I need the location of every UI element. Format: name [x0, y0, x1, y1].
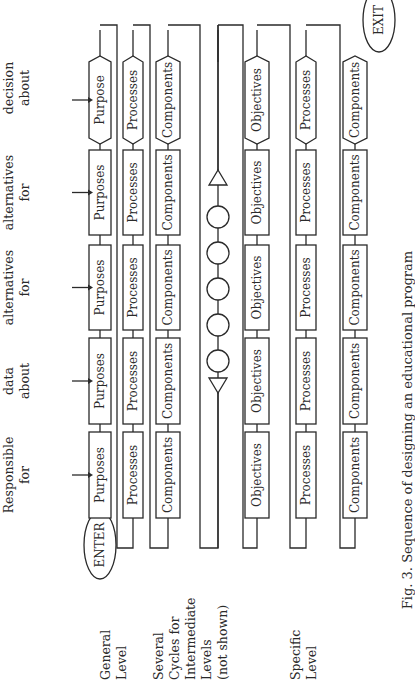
level-label-intermediate: SeveralCycles forIntermediateLevels(not …: [151, 597, 230, 680]
exit-node: EXIT: [363, 0, 395, 52]
box-label: Objectives: [250, 256, 264, 320]
general-processes-box: Processes: [123, 338, 143, 424]
box-label: Purpose: [93, 75, 107, 125]
specific-components-box: Components: [343, 56, 367, 144]
level-label-specific: SpecificLevel: [288, 630, 319, 680]
box-label: Objectives: [250, 349, 264, 413]
specific-components-box: Components: [343, 150, 367, 235]
specific-processes-box: Processes: [296, 56, 316, 144]
step-action-label: Identifyseveralalternativesfor: [0, 250, 93, 325]
specific-objectives-box: Objectives: [245, 150, 269, 235]
box-label: Components: [161, 154, 175, 230]
general-components-box: Components: [156, 245, 180, 330]
box-label: Purposes: [93, 447, 107, 503]
diagram-figure: ENTER EXIT PurposesPurposesPurposesPurpo…: [0, 0, 415, 684]
specific-objectives-box: Objectives: [245, 338, 269, 424]
cycle-circle-icon: [207, 278, 229, 300]
svg-text:for: for: [17, 466, 32, 484]
box-label: Processes: [299, 351, 313, 411]
specific-processes-box: Processes: [296, 432, 316, 518]
general-components-box: Components: [156, 338, 180, 424]
specific-objectives-box: Objectives: [245, 56, 269, 144]
svg-text:General: General: [98, 630, 113, 680]
box-label: Processes: [126, 351, 140, 411]
svg-text:about: about: [17, 70, 32, 106]
svg-text:alternatives: alternatives: [1, 250, 16, 325]
box-label: Processes: [299, 162, 313, 222]
svg-text:Level: Level: [114, 646, 129, 680]
specific-objectives-box: Objectives: [245, 432, 269, 518]
general-processes-box: Processes: [123, 245, 143, 330]
enter-label: ENTER: [93, 522, 107, 568]
box-label: Components: [161, 249, 175, 325]
step-actions: IdentifyPersonsResponsibleforCollectdata…: [0, 62, 93, 514]
box-label: Purposes: [93, 353, 107, 409]
box-label: Purposes: [93, 165, 107, 221]
svg-text:data: data: [1, 366, 16, 394]
level-labels: GeneralLevelSeveralCycles forIntermediat…: [98, 597, 319, 680]
box-label: Purposes: [93, 260, 107, 316]
box-label: Components: [348, 343, 362, 419]
box-label: Objectives: [250, 161, 264, 225]
exit-label: EXIT: [372, 5, 386, 35]
box-label: Processes: [126, 70, 140, 130]
step-action-label: Make adecisionabout: [0, 62, 93, 114]
specific-processes-box: Processes: [296, 150, 316, 235]
enter-node: ENTER: [84, 511, 116, 579]
general-processes-box: Processes: [123, 432, 143, 518]
box-label: Components: [161, 343, 175, 419]
specific-processes-box: Processes: [296, 338, 316, 424]
cycle-end-triangle-icon: [209, 170, 227, 185]
box-label: Processes: [299, 445, 313, 505]
general-processes-box: Processes: [123, 150, 143, 235]
svg-text:Several: Several: [151, 632, 166, 680]
specific-components-box: Components: [343, 432, 367, 518]
cycle-circle-icon: [207, 242, 229, 264]
intermediate-cycles: [207, 25, 229, 548]
svg-text:Responsible: Responsible: [1, 437, 16, 514]
specific-components-box: Components: [343, 245, 367, 330]
specific-components-box: Components: [343, 338, 367, 424]
cycle-start-triangle-icon: [209, 378, 227, 393]
box-label: Processes: [299, 70, 313, 130]
svg-text:about: about: [17, 363, 32, 399]
box-label: Components: [161, 437, 175, 513]
box-label: Processes: [299, 257, 313, 317]
cycle-circle-icon: [207, 314, 229, 336]
svg-text:Intermediate: Intermediate: [183, 597, 198, 680]
general-components-box: Components: [156, 56, 180, 144]
svg-text:Specific: Specific: [288, 630, 303, 680]
svg-text:for: for: [17, 183, 32, 201]
box-label: Objectives: [250, 68, 264, 132]
specific-objectives-box: Objectives: [245, 245, 269, 330]
step-action-label: Refine twoor morealternativesfor: [0, 155, 93, 230]
box-label: Components: [348, 437, 362, 513]
general-components-box: Components: [156, 432, 180, 518]
cycle-circle-icon: [207, 350, 229, 372]
box-label: Components: [348, 154, 362, 230]
svg-text:Levels: Levels: [199, 639, 214, 680]
step-action-label: IdentifyPersonsResponsiblefor: [0, 437, 93, 514]
box-label: Components: [348, 249, 362, 325]
box-label: Objectives: [250, 443, 264, 507]
svg-text:(not shown): (not shown): [215, 605, 230, 680]
cycle-circle-icon: [207, 206, 229, 228]
svg-text:alternatives: alternatives: [1, 155, 16, 230]
specific-processes-box: Processes: [296, 245, 316, 330]
level-label-general: GeneralLevel: [98, 630, 129, 680]
svg-text:decision: decision: [1, 62, 16, 114]
box-label: Processes: [126, 257, 140, 317]
figure-caption: Fig. 3. Sequence of designing an educati…: [400, 251, 415, 609]
general-processes-box: Processes: [123, 56, 143, 144]
svg-text:Level: Level: [304, 646, 319, 680]
general-components-box: Components: [156, 150, 180, 235]
box-label: Processes: [126, 162, 140, 222]
box-label: Processes: [126, 445, 140, 505]
svg-text:for: for: [17, 278, 32, 296]
svg-text:Cycles for: Cycles for: [167, 616, 182, 680]
box-label: Components: [161, 62, 175, 138]
box-label: Components: [348, 62, 362, 138]
step-action-label: Collectdataabout: [0, 359, 93, 404]
